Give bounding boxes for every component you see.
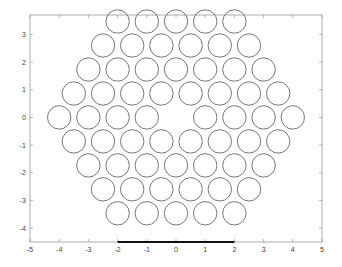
- x-tick-label: -4: [56, 246, 62, 253]
- x-tick-label: -1: [144, 246, 150, 253]
- y-tick-label: 1: [22, 86, 26, 93]
- y-tick-label: 3: [22, 31, 26, 38]
- x-tick-label: 1: [203, 246, 207, 253]
- x-tick-label: -3: [85, 246, 91, 253]
- x-tick-label: 5: [320, 246, 324, 253]
- x-tick-label: 2: [232, 246, 236, 253]
- x-tick-label: 0: [174, 246, 178, 253]
- y-tick-label: -3: [20, 197, 26, 204]
- x-tick-label: -2: [114, 246, 120, 253]
- x-tick-label: -5: [27, 246, 33, 253]
- y-tick-label: -1: [20, 142, 26, 149]
- x-tick-label: 4: [291, 246, 295, 253]
- chart-canvas: -5-4-3-2-1012345 3210-1-2-3-4: [0, 0, 342, 267]
- y-tick-label: 0: [22, 114, 26, 121]
- axes-box: [30, 15, 322, 242]
- y-tick-label: -4: [20, 225, 26, 232]
- x-tick-label: 3: [262, 246, 266, 253]
- y-tick-label: -2: [20, 169, 26, 176]
- y-tick-label: 2: [22, 59, 26, 66]
